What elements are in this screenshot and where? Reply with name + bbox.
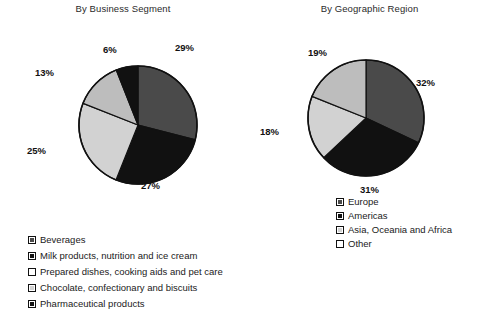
legend-item-asia-oceania-africa: Asia, Oceania and Africa [336, 224, 452, 235]
legend-swatch-icon-pharmaceutical [28, 300, 36, 308]
pie-label-pharmaceutical: 6% [103, 44, 117, 55]
legend-label-prepared-dishes: Prepared dishes, cooking aids and pet ca… [40, 266, 223, 277]
legend-item-other: Other [336, 238, 452, 249]
legend-swatch-icon-other [336, 240, 344, 248]
legend-item-beverages: Beverages [28, 234, 223, 245]
chart-title-geographic-region: By Geographic Region [246, 3, 493, 14]
pie-label-asia-oceania-africa: 18% [260, 126, 279, 137]
legend-geographic-region: Europe Americas Asia, Oceania and Africa… [336, 196, 452, 252]
legend-item-milk-products: Milk products, nutrition and ice cream [28, 250, 223, 261]
pie-label-milk-products: 27% [141, 180, 160, 191]
legend-item-pharmaceutical: Pharmaceutical products [28, 298, 223, 309]
pie-label-prepared-dishes: 25% [27, 145, 46, 156]
legend-item-europe: Europe [336, 196, 452, 207]
pie-label-chocolate: 13% [35, 67, 54, 78]
legend-label-milk-products: Milk products, nutrition and ice cream [40, 250, 197, 261]
pie-chart-business-segment: 29% 27% 25% 13% 6% [58, 45, 218, 205]
legend-swatch-icon-beverages [28, 236, 36, 244]
legend-item-prepared-dishes: Prepared dishes, cooking aids and pet ca… [28, 266, 223, 277]
legend-item-americas: Americas [336, 210, 452, 221]
chart-panel-geographic-region: By Geographic Region 32% 31% 18% 19% Eur… [246, 0, 493, 330]
legend-swatch-icon-prepared-dishes [28, 268, 36, 276]
legend-item-chocolate: Chocolate, confectionary and biscuits [28, 282, 223, 293]
legend-swatch-icon-milk-products [28, 252, 36, 260]
legend-swatch-icon-europe [336, 198, 344, 206]
legend-label-americas: Americas [348, 210, 388, 221]
legend-label-pharmaceutical: Pharmaceutical products [40, 298, 145, 309]
legend-label-europe: Europe [348, 196, 379, 207]
legend-swatch-icon-asia-oceania-africa [336, 226, 344, 234]
pie-label-beverages: 29% [175, 42, 194, 53]
pie-chart-geographic-region: 32% 31% 18% 19% [286, 38, 446, 198]
pie-svg-geographic-region [286, 38, 446, 198]
chart-panel-business-segment: By Business Segment 29% 27% 25% 13% 6% B… [0, 0, 246, 330]
legend-swatch-icon-americas [336, 212, 344, 220]
chart-title-business-segment: By Business Segment [0, 3, 246, 14]
legend-swatch-icon-chocolate [28, 284, 36, 292]
pie-label-other: 19% [308, 47, 327, 58]
legend-label-other: Other [348, 238, 372, 249]
legend-label-asia-oceania-africa: Asia, Oceania and Africa [348, 224, 452, 235]
pie-label-europe: 32% [416, 77, 435, 88]
legend-label-chocolate: Chocolate, confectionary and biscuits [40, 282, 197, 293]
pie-svg-business-segment [58, 45, 218, 205]
legend-label-beverages: Beverages [40, 234, 85, 245]
pie-label-americas: 31% [360, 184, 379, 195]
legend-business-segment: Beverages Milk products, nutrition and i… [28, 234, 223, 314]
